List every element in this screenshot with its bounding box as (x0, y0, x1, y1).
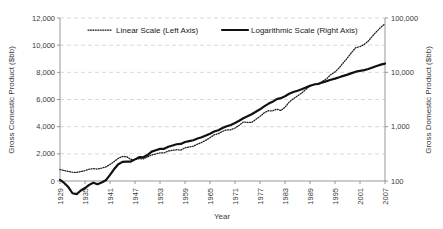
x-axis-tick-label: 1959 (181, 188, 190, 205)
gdp-dual-axis-chart: 02,0004,0006,0008,00010,00012,000 1001,0… (0, 0, 443, 229)
y-axis-left-tick-label: 8,000 (36, 68, 55, 77)
x-axis-tick-label: 1971 (231, 188, 240, 205)
legend: Linear Scale (Left Axis) Logarithmic Sca… (88, 26, 358, 35)
series-line-linear-scale (60, 24, 385, 173)
x-axis-tick-label: 1953 (156, 188, 165, 205)
right-axis-ticks: 1001,00010,000100,000 (385, 14, 418, 186)
y-axis-left-title: Gross Comestic Product ($bb) (7, 46, 16, 154)
y-axis-right-tick-label: 100,000 (391, 14, 418, 23)
x-axis-tick-label: 2007 (381, 188, 390, 205)
legend-label-linear: Linear Scale (Left Axis) (116, 26, 199, 35)
y-axis-left-tick-label: 2,000 (36, 149, 55, 158)
y-axis-left-tick-label: 6,000 (36, 95, 55, 104)
left-axis-ticks: 02,0004,0006,0008,00010,00012,000 (32, 14, 60, 186)
x-axis-title: Year (214, 212, 231, 221)
y-axis-right-tick-label: 100 (391, 177, 404, 186)
x-axis-tick-label: 1965 (206, 188, 215, 205)
y-axis-left-tick-label: 12,000 (32, 14, 55, 23)
x-axis-tick-label: 1983 (281, 188, 290, 205)
y-axis-left-tick-label: 0 (51, 177, 55, 186)
y-axis-right-tick-label: 10,000 (391, 68, 414, 77)
x-axis-tick-label: 1941 (106, 188, 115, 205)
chart-canvas: 02,0004,0006,0008,00010,00012,000 1001,0… (0, 0, 443, 229)
gridlines (60, 18, 385, 154)
y-axis-left-tick-label: 4,000 (36, 122, 55, 131)
x-axis-tick-label: 1947 (131, 188, 140, 205)
x-axis-tick-label: 1995 (331, 188, 340, 205)
x-axis-tick-label: 2001 (356, 188, 365, 205)
legend-label-logarithmic: Logarithmic Scale (Right Axis) (251, 26, 358, 35)
y-axis-right-tick-label: 1,000 (391, 122, 410, 131)
x-axis-tick-label: 1989 (306, 188, 315, 205)
x-axis-tick-label: 1977 (256, 188, 265, 205)
x-axis-ticks: 1929193519411947195319591965197119771983… (56, 181, 390, 205)
y-axis-right-title: Gross Domestic Product ($bb) (424, 46, 433, 154)
y-axis-left-tick-label: 10,000 (32, 41, 55, 50)
series-line-logarithmic-scale (60, 64, 385, 195)
x-axis-tick-label: 1929 (56, 188, 65, 205)
